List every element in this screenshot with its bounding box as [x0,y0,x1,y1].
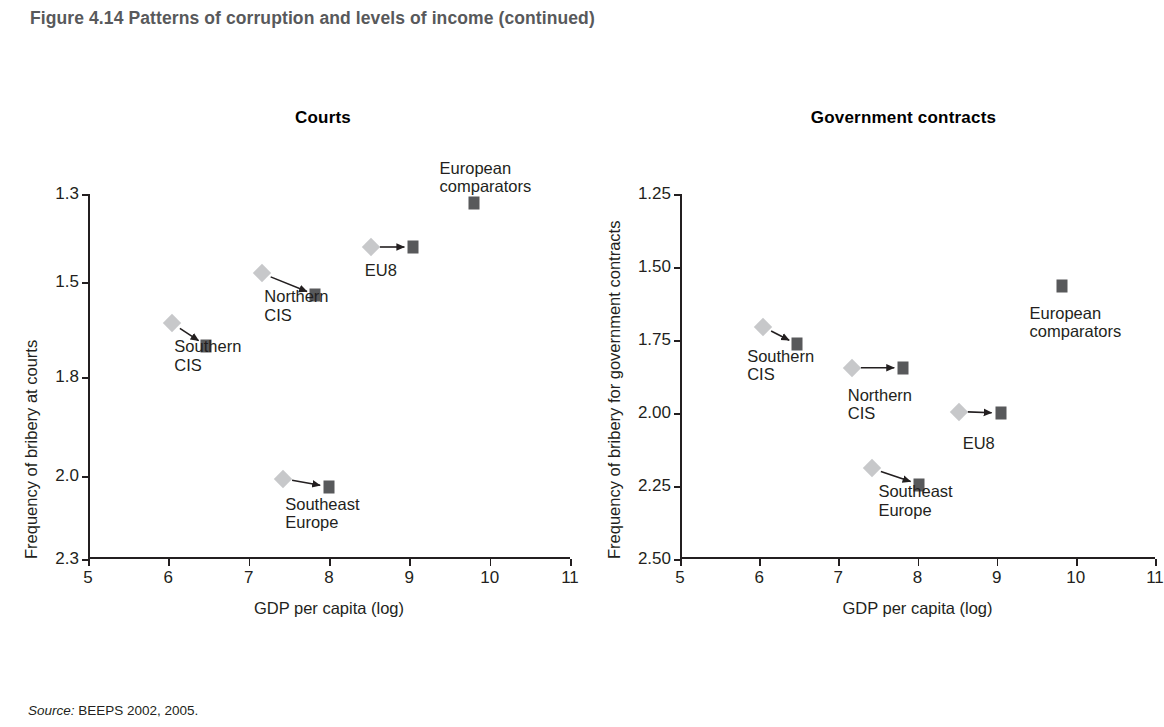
data-point-2005 [995,407,1006,420]
x-tick [249,559,251,566]
y-tick [82,377,88,379]
y-axis-line [88,194,90,559]
x-tick-label: 11 [1146,568,1164,588]
chart-panel-courts: Courts Frequency of bribery at courts GD… [0,100,590,700]
figure-page: Figure 4.14 Patterns of corruption and l… [0,0,1164,727]
data-point-label: Southern CIS [174,337,241,374]
x-tick [88,559,90,566]
plot-area-courts: Frequency of bribery at courts GDP per c… [88,194,570,559]
x-tick-label: 11 [561,568,579,588]
y-axis-line [680,194,682,559]
x-tick-label: 7 [244,568,253,588]
y-tick-label: 1.3 [55,184,79,204]
chart-title-courts: Courts [0,108,618,128]
y-tick [82,194,88,196]
data-point-label: European comparators [440,159,532,196]
data-point-label: Southeast Europe [285,495,359,532]
x-tick-label: 6 [164,568,173,588]
data-point-2002 [863,459,881,477]
x-axis-title: GDP per capita (log) [254,599,404,618]
data-point-2002 [274,469,292,487]
x-tick-label: 9 [405,568,414,588]
source-note: Source: BEEPS 2002, 2005. [28,703,198,718]
data-point-2005 [898,361,909,374]
data-point-label: EU8 [365,261,397,279]
data-point-2005 [1056,279,1067,292]
data-point-label: European comparators [1030,304,1122,341]
chart-title-government-contracts: Government contracts [583,108,1164,128]
x-tick-label: 9 [992,568,1001,588]
x-axis-title: GDP per capita (log) [842,599,992,618]
x-tick [570,559,572,566]
data-point-label: Northern CIS [264,287,328,324]
y-tick-label: 1.25 [638,184,671,204]
source-label: Source: [28,703,75,718]
y-tick [82,282,88,284]
data-point-2002 [163,314,181,332]
x-tick [918,559,920,566]
y-axis-title: Frequency of bribery at courts [22,340,41,559]
x-tick [1155,559,1157,566]
trend-arrow [881,471,911,481]
x-tick [997,559,999,566]
data-point-2005 [408,240,419,253]
figure-caption: Figure 4.14 Patterns of corruption and l… [30,8,595,29]
x-tick-label: 8 [913,568,922,588]
y-tick [674,267,680,269]
x-tick [490,559,492,566]
y-axis-title: Frequency of bribery for government cont… [605,221,624,559]
y-tick-label: 2.00 [638,403,671,423]
trend-arrow [968,412,992,413]
y-tick [674,413,680,415]
x-tick [759,559,761,566]
x-tick [168,559,170,566]
data-point-2002 [362,238,380,256]
y-tick [674,194,680,196]
data-point-label: Southeast Europe [878,482,952,519]
y-tick-label: 2.3 [55,549,79,569]
source-value: BEEPS 2002, 2005. [75,703,199,718]
x-tick-label: 8 [324,568,333,588]
x-tick [680,559,682,566]
plot-area-government-contracts: Frequency of bribery for government cont… [680,194,1155,559]
x-tick-label: 10 [1066,568,1085,588]
x-tick [329,559,331,566]
y-tick-label: 1.8 [55,367,79,387]
y-tick [674,340,680,342]
data-point-label: Northern CIS [848,386,912,423]
y-tick-label: 1.5 [55,272,79,292]
trend-arrow [292,480,320,485]
x-tick-label: 5 [83,568,92,588]
y-tick-label: 2.50 [638,549,671,569]
y-tick-label: 2.25 [638,476,671,496]
data-point-2002 [253,264,271,282]
y-tick-label: 2.0 [55,466,79,486]
data-point-2002 [949,402,967,420]
data-point-2002 [754,318,772,336]
x-tick-label: 5 [675,568,684,588]
y-tick-label: 1.50 [638,257,671,277]
y-tick [82,476,88,478]
data-point-2005 [468,196,479,209]
data-point-label: EU8 [963,434,995,452]
data-point-label: Southern CIS [747,347,814,384]
y-tick [674,486,680,488]
chart-panel-government-contracts: Government contracts Frequency of briber… [583,100,1164,700]
x-tick-label: 10 [480,568,499,588]
x-tick [409,559,411,566]
y-tick-label: 1.75 [638,330,671,350]
x-tick [838,559,840,566]
x-tick-label: 7 [834,568,843,588]
trend-arrow [771,331,789,340]
x-tick [1076,559,1078,566]
x-tick-label: 6 [754,568,763,588]
data-point-2002 [843,359,861,377]
data-point-2005 [324,480,335,493]
